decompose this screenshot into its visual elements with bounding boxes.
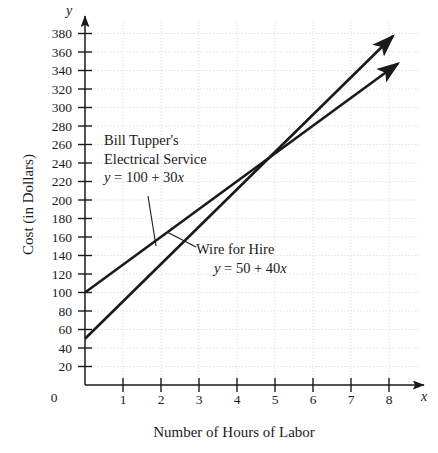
eq-slope: 40 [266,260,281,276]
y-tick-label-60: 60 [28,322,72,338]
x-tick-label-2: 2 [151,392,171,408]
eq-intercept: 100 [126,169,148,185]
x-tick-label-3: 3 [189,392,209,408]
x-tick-label-4: 4 [227,392,247,408]
x-axis-title: Number of Hours of Labor [0,424,438,441]
annotation-wire-for-hire-equation: y = 50 + 40x [214,259,287,278]
y-tick-label-300: 300 [28,100,72,116]
y-tick-label-340: 340 [28,63,72,79]
x-axis-name: x [421,389,427,405]
gridlines-vertical [123,22,389,385]
y-tick-label-40: 40 [28,341,72,357]
eq-plus: + [254,260,262,276]
series-line-wire-for-hire [85,36,393,339]
annotation-wire-for-hire-line1: Wire for Hire [196,240,287,259]
eq-equals: = [114,169,122,185]
y-axis-name: y [66,3,72,19]
y-tick-label-100: 100 [28,285,72,301]
eq-plus: + [151,169,159,185]
eq-variable: x [280,260,286,276]
x-tick-label-5: 5 [265,392,285,408]
y-tick-label-320: 320 [28,82,72,98]
x-tick-label-7: 7 [341,392,361,408]
annotation-bill-tupper: Bill Tupper's Electrical Service y = 100… [104,131,207,187]
eq-lhs: y [214,260,220,276]
annotation-bill-tupper-line1: Bill Tupper's [104,131,207,150]
origin-label-0: 0 [44,390,64,406]
annotation-wire-for-hire: Wire for Hire y = 50 + 40x [196,240,287,277]
x-tick-label-6: 6 [303,392,323,408]
annotation-bill-tupper-equation: y = 100 + 30x [104,168,207,187]
x-tick-label-1: 1 [113,392,133,408]
y-tick-label-380: 380 [28,26,72,42]
y-axis-title: Cost (in Dollars) [20,125,37,285]
eq-variable: x [178,169,184,185]
leader-line-upper-annotation [148,196,156,246]
y-tick-label-80: 80 [28,304,72,320]
y-tick-label-20: 20 [28,359,72,375]
eq-lhs: y [104,169,110,185]
annotation-bill-tupper-line2: Electrical Service [104,150,207,169]
eq-slope: 30 [163,169,178,185]
x-tick-label-8: 8 [379,392,399,408]
cost-comparison-line-chart: 380 360 340 320 300 280 260 240 220 200 … [0,0,438,453]
eq-equals: = [224,260,232,276]
eq-intercept: 50 [236,260,251,276]
y-tick-label-360: 360 [28,45,72,61]
